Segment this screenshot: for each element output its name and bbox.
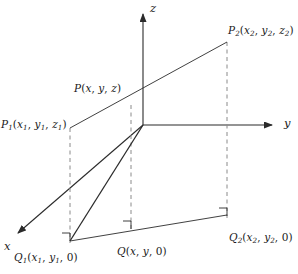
point-label-q: Q(x, y, 0) bbox=[117, 246, 167, 257]
right-angle-marker-q bbox=[123, 221, 131, 229]
y-axis-label: y bbox=[284, 118, 291, 130]
drop-line-group bbox=[70, 42, 227, 243]
point-label-p2: P2(x2, y2, z2) bbox=[228, 25, 294, 37]
point-label-q2: Q2(x2, y2, 0) bbox=[229, 232, 293, 244]
x-axis-line bbox=[18, 125, 143, 233]
origin-diagonal-group bbox=[70, 125, 143, 241]
point-label-p: P(x, y, z) bbox=[74, 83, 121, 94]
right-angle-group bbox=[62, 208, 227, 241]
point-label-p1: P1(x1, y1, z1) bbox=[1, 119, 67, 131]
base-segment-group bbox=[70, 215, 227, 241]
segment-q1-origin bbox=[70, 125, 143, 241]
point-label-q1: Q1(x1, y1, 0) bbox=[14, 252, 78, 264]
segment-q1-q2 bbox=[70, 215, 227, 241]
x-axis-label: x bbox=[4, 241, 11, 253]
right-angle-marker-q1 bbox=[62, 233, 70, 241]
z-axis-label: z bbox=[150, 3, 156, 15]
